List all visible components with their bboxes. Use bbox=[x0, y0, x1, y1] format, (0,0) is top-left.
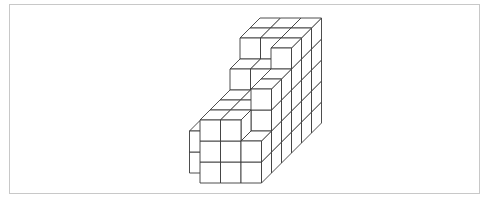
cube-stack-diagram bbox=[0, 0, 488, 208]
